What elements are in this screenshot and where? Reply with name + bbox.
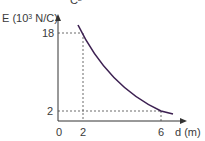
x-axis-arrow-icon [180, 118, 187, 124]
e-field-curve [78, 25, 173, 114]
y-tick-18: 18 [42, 28, 54, 39]
x-tick-0: 0 [56, 127, 62, 138]
x-tick-2: 2 [80, 127, 86, 138]
y-axis-label: E (103 N/C) [2, 13, 58, 24]
top-fragment-text: C² [70, 0, 82, 6]
x-axis-label: d (m) [175, 127, 201, 138]
x-tick-6: 6 [158, 127, 164, 138]
y-tick-2: 2 [47, 106, 53, 117]
